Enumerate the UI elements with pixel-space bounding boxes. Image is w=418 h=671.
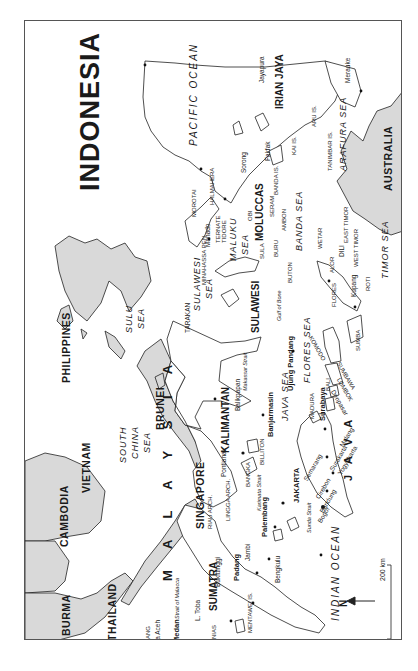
riau-arch-label: RIAU ARCH. (207, 495, 213, 529)
kalimantan-label: KALIMANTAN (221, 387, 231, 453)
padang-label: Padang (233, 554, 241, 581)
cambodia-label: CAMBODIA (59, 485, 70, 547)
scale-bar (387, 565, 391, 639)
manado-label: Manado (205, 224, 212, 248)
bangka-label: BANGKA (245, 462, 251, 487)
lingga-arch-label: LINGGA ARCH. (225, 479, 231, 521)
banjarmasin-label: Banjarmasin (267, 392, 275, 437)
buru-landmass (221, 289, 239, 307)
bengkulu-label: Bengkulu (275, 556, 282, 583)
madura-label: MADURA (309, 393, 315, 419)
burma-label: BURMA (61, 594, 72, 636)
sula-label: SULA (259, 243, 265, 259)
map-title: INDONESIA (77, 32, 104, 191)
flores-sea-label: FLORES SEA (303, 316, 312, 383)
tanimbar-is-label: TANIMBAR IS. (327, 131, 333, 171)
billiton-label: BILLITON (259, 438, 265, 465)
thailand-label: THAILAND (107, 583, 118, 640)
makassar-strait-label: Makassar Strait (243, 353, 249, 391)
sulawesi-label: SULAWESI (251, 281, 261, 333)
maluku-sea-label-1: MALUKU (229, 217, 238, 261)
merauke-label: Merauke (345, 58, 352, 83)
aru-is-label: ARU IS. (311, 105, 317, 127)
pontianak-label: Pontianak (221, 448, 228, 477)
buru-label: BURU (273, 240, 279, 257)
flores-label: FLORES (331, 283, 337, 307)
dili-label: DILI (339, 245, 346, 257)
arafura-sea-label: ARAFURA SEA (339, 97, 348, 171)
mentawei-is-label: MENTAWEI IS. (247, 592, 253, 633)
singapore-label: SINGAPORE (195, 461, 206, 529)
east-timor-label: EAST TIMOR (343, 207, 349, 243)
ujung-pandang-label: Ujung Pandang (287, 336, 295, 391)
irian-jaya-landmass (143, 61, 345, 203)
scale-max-label: 200 km (379, 558, 386, 581)
surabaya-label: Surabaya (319, 387, 327, 421)
sunda-strait-label: Sunda Strait (307, 503, 313, 533)
tarakan-label: TARAKAN (185, 303, 192, 333)
bukittinggi-label: Bukittinggi (215, 557, 222, 587)
philippines-label: PHILIPPINES (61, 312, 72, 383)
billiton-landmass (247, 439, 259, 453)
sumba-label: SUMBA (355, 330, 361, 351)
morotai-label: MOROTAI (191, 189, 197, 217)
south-china-sea-label-2: CHINA (131, 426, 140, 459)
obi-label: OBI (247, 211, 253, 221)
scale-zero-label: 0 (379, 639, 386, 640)
irian-jaya-label: IRIAN JAYA (275, 54, 285, 109)
pacific-ocean-label: PACIFIC OCEAN (189, 43, 199, 146)
tidore-label: TIDORE (221, 220, 227, 243)
balikpapan-label: Balikpapan (235, 379, 242, 411)
moluccas-label: MOLUCCAS (255, 183, 265, 241)
jakarta-label: JAKARTA (293, 468, 301, 503)
north-arrow-shape (347, 597, 375, 605)
banda-sea-label: BANDA SEA (295, 191, 304, 251)
palembang-label: Palembang (261, 497, 269, 537)
north-arrow-label: N (339, 600, 349, 607)
seram-label: SERAM (269, 196, 275, 217)
sulu-sea-label-2: SEA (137, 308, 146, 329)
gulf-of-bone-label: Gulf of Bone (277, 290, 283, 321)
sabang-label: SABANG (145, 626, 151, 640)
sulu-sea-label-1: SULU (125, 305, 134, 333)
nias-label: NIAS (211, 625, 217, 639)
ambon-label: AMBON (281, 209, 287, 231)
malaysia-label: M A L A Y S I A (161, 356, 174, 581)
maluku-sea-label-2: SEA (241, 234, 250, 255)
wetar-label: WETAR (317, 228, 323, 249)
map-frame: INDONESIA PACIFIC OCEAN INDIAN OCEAN PHI… (24, 20, 402, 640)
cambodia-landmass (25, 541, 69, 593)
malacca-strait-label: Strait of Malacca (175, 578, 181, 619)
banda-is-label: BANDA IS. (273, 166, 279, 195)
medan-label: Medan (173, 619, 181, 640)
west-timor-label: WEST TIMOR (353, 229, 359, 267)
banda-aceh-label: Banda Aceh (155, 620, 162, 640)
south-china-sea-label-1: SOUTH (119, 427, 128, 464)
vietnam-label: VIETNAM (81, 442, 92, 493)
jambi-label: Jambi (245, 544, 252, 561)
south-china-sea-label-3: SEA (143, 432, 152, 453)
jayapura-label: Jayapura (259, 56, 266, 83)
buton-label: BUTON (287, 262, 293, 283)
alor-label: ALOR (329, 257, 335, 273)
timor-sea-label: TIMOR SEA (381, 220, 390, 279)
halmahera-label: HALMAHERA (209, 168, 215, 205)
kai-is-label: KAI IS. (291, 136, 297, 155)
l-toba-label: L. Toba (195, 600, 202, 621)
sorong-label: Sorong (241, 152, 248, 173)
kupang-label: Kupang (351, 275, 358, 297)
fakfak-label: Fakfak (265, 141, 272, 161)
australia-label: AUSTRALIA (383, 126, 394, 191)
roti-label: ROTI (365, 277, 371, 291)
